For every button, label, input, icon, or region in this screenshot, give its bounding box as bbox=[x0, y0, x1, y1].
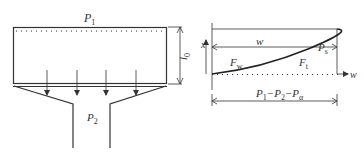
diagram-canvas: P1 l0 P2 x w w Ps Fw Ft P1−P2 bbox=[0, 0, 364, 157]
chamber-box bbox=[14, 28, 167, 84]
right-deflection-diagram: x w w Ps Fw Ft P1−P2−Pα bbox=[200, 23, 357, 106]
bottom-pressure-diff-label: P1−P2−Pα bbox=[255, 87, 304, 102]
bottom-pressure-label: P2 bbox=[86, 111, 98, 126]
top-pressure-label: P1 bbox=[83, 11, 95, 27]
ft-label: Ft bbox=[298, 56, 309, 71]
ps-label: Ps bbox=[317, 41, 328, 56]
nozzle-right-wall bbox=[110, 86, 166, 148]
w-axis-label: w bbox=[350, 69, 357, 80]
x-axis-label: x bbox=[200, 39, 206, 50]
width-label: w bbox=[256, 35, 264, 47]
height-label: l0 bbox=[177, 53, 192, 60]
left-chamber-diagram: P1 l0 P2 bbox=[13, 11, 192, 148]
fw-label: Fw bbox=[229, 56, 243, 71]
nozzle-left-wall bbox=[14, 86, 73, 148]
